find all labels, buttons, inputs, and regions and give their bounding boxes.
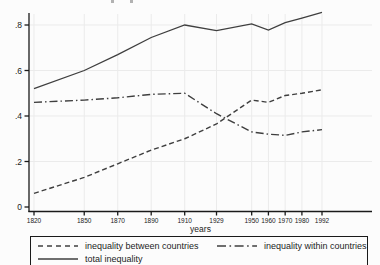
- x-tick-labels: 1820185018701890191019291950196019701980…: [27, 217, 330, 224]
- gridlines: [30, 14, 372, 211]
- x-tick-label: 1870: [110, 217, 125, 224]
- axes: [25, 13, 373, 216]
- y-tick-label: .8: [15, 20, 22, 30]
- legend-label-total-inequality: total inequality: [85, 253, 143, 265]
- x-tick-label: 1890: [144, 217, 159, 224]
- x-tick-label: 1910: [177, 217, 192, 224]
- chart-figure: .8.6.4.201820185018701890191019291950196…: [0, 0, 380, 265]
- dashed-line-sample: [37, 243, 79, 249]
- series-line-0: [34, 90, 322, 194]
- legend-label-between-countries: inequality between countries: [85, 240, 199, 252]
- x-tick-label: 1929: [209, 217, 224, 224]
- solid-line-sample: [37, 256, 79, 262]
- series-line-2: [34, 12, 322, 88]
- y-tick-label: 0: [17, 202, 22, 212]
- plot-area: .8.6.4.201820185018701890191019291950196…: [0, 0, 380, 236]
- x-tick-label: 1960: [261, 217, 276, 224]
- legend-item-total-inequality: total inequality: [37, 253, 143, 265]
- y-tick-labels: .8.6.4.20: [15, 20, 22, 212]
- x-tick-label: 1980: [295, 217, 310, 224]
- dashdot-line-sample: [216, 243, 258, 249]
- x-tick-label: 1850: [77, 217, 92, 224]
- x-tick-label: 1820: [27, 217, 42, 224]
- y-tick-label: .4: [15, 111, 22, 121]
- y-tick-label: .6: [15, 66, 22, 76]
- x-axis-title: years: [190, 224, 211, 234]
- series-line-1: [34, 93, 322, 135]
- legend-item-within-countries: inequality within countries: [216, 240, 367, 252]
- legend-label-within-countries: inequality within countries: [264, 240, 367, 252]
- x-tick-label: 1970: [278, 217, 293, 224]
- legend-box: inequality between countries inequality …: [30, 236, 368, 265]
- x-tick-label: 1950: [244, 217, 259, 224]
- legend-item-between-countries: inequality between countries: [37, 240, 199, 252]
- x-tick-label: 1992: [315, 217, 330, 224]
- y-tick-label: .2: [15, 157, 22, 167]
